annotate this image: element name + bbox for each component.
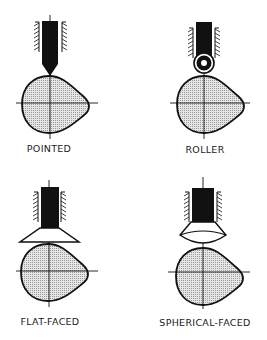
label-spherical-faced: SPHERICAL-FACED	[159, 317, 250, 328]
cam-follower-diagram	[0, 0, 267, 340]
pointed-follower	[42, 21, 58, 76]
panel-roller	[170, 22, 250, 139]
cam	[177, 76, 244, 133]
cam	[21, 244, 88, 301]
cam	[176, 248, 243, 305]
label-flat-faced: FLAT-FACED	[21, 316, 80, 327]
spherical-faced-follower	[180, 188, 226, 243]
panel-pointed	[16, 15, 98, 139]
roller-follower	[194, 22, 214, 73]
label-pointed: POINTED	[27, 143, 71, 154]
cam	[22, 76, 89, 133]
label-roller: ROLLER	[185, 144, 224, 155]
flat-faced-follower	[20, 187, 79, 242]
panel-spherical-faced	[168, 177, 250, 309]
panel-flat-faced	[16, 180, 98, 307]
